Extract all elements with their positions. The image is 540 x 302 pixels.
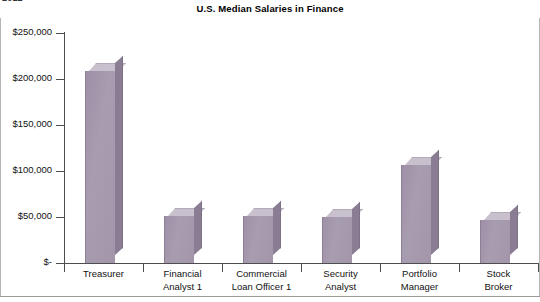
x-axis-category-label: StockBroker [459, 268, 538, 293]
y-axis-tick-label: $- [44, 256, 52, 267]
x-axis-separator [538, 263, 539, 272]
x-axis-category-label: FinancialAnalyst 1 [143, 268, 222, 293]
bar-side-face [194, 201, 202, 255]
x-axis-category-label-line: Loan Officer 1 [222, 281, 301, 294]
y-axis-tick-mark [56, 79, 64, 80]
y-axis-tick: $50,000 [0, 217, 64, 218]
bar-front-face [401, 165, 431, 263]
y-axis-tick: $200,000 [0, 79, 64, 80]
chart-container: 2012 U.S. Median Salaries in Finance $25… [0, 0, 540, 302]
x-axis-category-label-line: Security [301, 268, 380, 281]
x-axis-category-label-line: Treasurer [64, 268, 143, 281]
chart-title: U.S. Median Salaries in Finance [0, 3, 540, 14]
x-axis-category-label-line: Financial [143, 268, 222, 281]
x-axis-category-label-line: Portfolio [380, 268, 459, 281]
bar-front-face [480, 220, 510, 263]
x-axis-category-label-line: Analyst [301, 281, 380, 294]
y-axis-tick-label: $250,000 [12, 26, 52, 37]
y-axis-tick: $- [0, 263, 64, 264]
y-axis-tick: $100,000 [0, 171, 64, 172]
x-axis-category-label-line: Analyst 1 [143, 281, 222, 294]
bar-column [243, 216, 273, 263]
bar-front-face [243, 216, 273, 263]
y-axis-tick-mark [56, 263, 64, 264]
x-axis-category-label-line: Stock [459, 268, 538, 281]
y-axis-tick-label: $200,000 [12, 72, 52, 83]
bar-front-face [164, 216, 194, 263]
bar-column [401, 165, 431, 263]
bar-side-face [115, 56, 123, 255]
bar-side-face [273, 201, 281, 255]
y-axis-tick-label: $50,000 [18, 210, 52, 221]
y-axis-tick-mark [56, 125, 64, 126]
x-axis-category-label-line: Broker [459, 281, 538, 294]
x-axis-category-label-line: Manager [380, 281, 459, 294]
y-axis-tick-label: $150,000 [12, 118, 52, 129]
bar-side-face [431, 149, 439, 255]
bar-column [322, 217, 352, 263]
bar-column [85, 71, 115, 263]
y-axis-tick: $150,000 [0, 125, 64, 126]
bar-side-face [352, 202, 360, 255]
y-axis-line [64, 32, 65, 264]
bar-column [164, 216, 194, 263]
bar-front-face [85, 71, 115, 263]
x-axis-category-label: SecurityAnalyst [301, 268, 380, 293]
y-axis-tick: $250,000 [0, 33, 64, 34]
y-axis-tick-mark [56, 217, 64, 218]
y-axis-tick-mark [56, 171, 64, 172]
y-axis-tick-mark [56, 33, 64, 34]
bar-front-face [322, 217, 352, 263]
frame-bottom-border [0, 296, 540, 297]
bar-side-face [510, 205, 518, 255]
y-axis-tick-label: $100,000 [12, 164, 52, 175]
x-axis-category-label-line: Commercial [222, 268, 301, 281]
x-axis-category-label: Treasurer [64, 268, 143, 281]
x-axis-category-label: PortfolioManager [380, 268, 459, 293]
bar-column [480, 220, 510, 263]
frame-left-border [0, 18, 1, 296]
x-axis-category-label: CommercialLoan Officer 1 [222, 268, 301, 293]
